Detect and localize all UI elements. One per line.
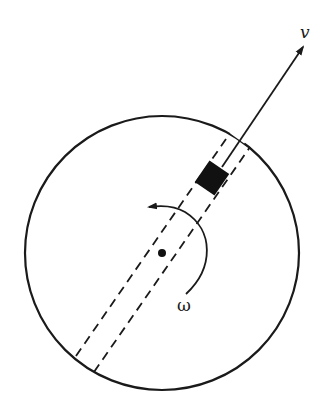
omega-label: ω (177, 295, 191, 315)
velocity-arrow (222, 47, 303, 167)
sliding-block (195, 160, 230, 195)
velocity-label: v (300, 22, 310, 42)
groove-line-right (94, 147, 250, 372)
diagram-canvas: v ω (0, 0, 326, 414)
center-dot (158, 249, 166, 257)
